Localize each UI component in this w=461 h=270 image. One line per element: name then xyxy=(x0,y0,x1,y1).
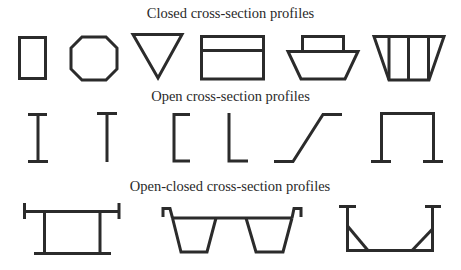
profile-hat-section xyxy=(371,114,443,162)
profile-box-girder-with-flanges xyxy=(24,203,119,254)
profile-trapezoid-multi-cell xyxy=(374,37,444,81)
profile-double-trough-with-lips xyxy=(163,209,301,253)
profile-I-section xyxy=(28,115,48,162)
profile-T-section xyxy=(97,114,117,163)
cross-section-diagram xyxy=(0,0,461,270)
open-closed-profiles-row xyxy=(24,203,441,254)
open-profiles-row xyxy=(28,113,443,162)
profile-rectangle-with-divider xyxy=(202,37,264,80)
profile-L-section xyxy=(229,113,248,161)
profile-channel-section xyxy=(174,115,190,162)
profile-trapezoid-with-box xyxy=(288,37,358,80)
profile-octagon xyxy=(71,37,117,80)
closed-profiles-row xyxy=(20,35,445,81)
profile-rectangle xyxy=(20,38,46,79)
profile-inverted-triangle xyxy=(133,35,182,79)
profile-Z-section xyxy=(274,115,342,162)
profile-U-section-with-gussets xyxy=(339,207,441,251)
